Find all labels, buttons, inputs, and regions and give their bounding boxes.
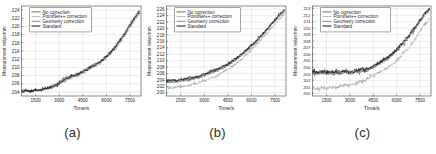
y-tick-label: 209 [303,32,311,37]
x-tick-label: 7500 [125,98,136,103]
y-axis-title: Measurement value/mm [293,26,298,75]
x-tick-label: 3000 [345,98,356,103]
y-tick-label: 222 [12,16,20,21]
y-tick-label: 220 [12,24,20,29]
x-tick-label: 6000 [392,98,403,103]
y-axis-title: Measurement value/mm [147,26,152,75]
x-tick-label: 7500 [270,98,281,103]
chart-legend: No correctionPointNet++ correctionGeomet… [321,8,391,32]
panel-caption: (c) [355,126,371,139]
y-tick-label: 211 [304,19,312,24]
y-tick-label: 204 [157,78,165,83]
y-tick-label: 202 [303,78,311,83]
y-tick-label: 204 [12,90,20,95]
y-tick-label: 203 [303,72,311,77]
y-tick-label: 216 [157,39,165,44]
y-tick-label: 222 [157,20,165,25]
y-tick-label: 206 [12,81,20,86]
x-axis-title: Time/s [73,105,89,111]
chart-panel-b: 2002022042062082102122142162182202222242… [145,0,290,154]
chart-panel-a: 2042062082102122142162182202222241500300… [0,0,145,154]
x-tick-label: 7500 [415,98,426,103]
y-tick-label: 216 [12,41,20,46]
x-tick-label: 6000 [246,98,257,103]
panel-caption: (a) [64,126,81,139]
y-tick-label: 208 [12,73,20,78]
y-tick-label: 210 [12,65,20,70]
chart-plot: 2042062082102122142162182202222241500300… [0,0,145,122]
y-tick-label: 201 [303,85,311,90]
y-tick-label: 218 [12,32,20,37]
x-tick-label: 1500 [321,98,332,103]
y-tick-label: 204 [303,65,311,70]
y-tick-label: 208 [157,65,165,70]
panel-caption: (b) [209,126,226,139]
figure-container: 2042062082102122142162182202222241500300… [0,0,436,154]
chart-plot: 2002012022032042052062072082092102112122… [290,0,435,122]
y-tick-label: 212 [303,13,311,18]
plot-area: 2002022042062082102122142162182202222242… [145,0,290,122]
legend-label: Standard [43,24,62,29]
x-tick-label: 4500 [78,98,89,103]
x-axis-title: Time/s [218,105,234,111]
x-tick-label: 4500 [368,98,379,103]
x-axis-title: Time/s [364,105,380,111]
y-tick-label: 220 [157,26,165,31]
y-tick-label: 202 [157,84,165,89]
x-tick-label: 4500 [223,98,234,103]
legend-label: Standard [334,24,353,29]
chart-legend: No correctionPointNet++ correctionGeomet… [30,8,92,32]
y-tick-label: 224 [12,8,20,13]
y-tick-label: 218 [157,33,165,38]
y-tick-label: 226 [157,7,165,12]
y-tick-label: 206 [157,71,165,76]
x-tick-label: 6000 [101,98,112,103]
plot-area: 2042062082102122142162182202222241500300… [0,0,145,122]
y-tick-label: 205 [303,58,311,63]
y-tick-label: 214 [12,49,20,54]
y-tick-label: 212 [157,52,165,57]
y-tick-label: 212 [12,57,20,62]
chart-plot: 2002022042062082102122142162182202222242… [145,0,290,122]
x-tick-label: 3000 [54,98,65,103]
y-tick-label: 210 [303,26,311,31]
chart-panel-c: 2002012022032042052062072082092102112122… [290,0,435,154]
y-tick-label: 206 [303,52,311,57]
x-tick-label: 1500 [176,98,187,103]
y-tick-label: 208 [303,39,311,44]
y-tick-label: 224 [157,13,165,18]
y-axis-title: Measurement value/mm [2,26,7,75]
plot-area: 2002012022032042052062072082092102112122… [290,0,435,122]
y-tick-label: 207 [303,45,311,50]
chart-legend: No correctionPointNet++ correctionGeomet… [175,8,241,32]
y-tick-label: 213 [303,6,311,11]
y-tick-label: 214 [157,45,165,50]
y-tick-label: 200 [157,90,165,95]
y-tick-label: 210 [157,58,165,63]
x-tick-label: 3000 [199,98,210,103]
x-tick-label: 1500 [31,98,42,103]
legend-label: Standard [188,24,207,29]
y-tick-label: 200 [303,91,311,96]
